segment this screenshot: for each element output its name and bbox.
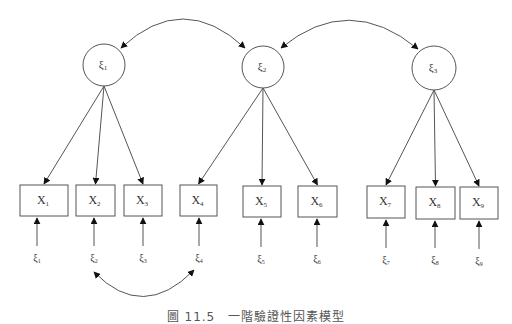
- loading-arrow-F1-X1: [44, 86, 104, 184]
- error-label: ξ1: [33, 252, 40, 264]
- loading-arrow-F2-X6: [263, 88, 318, 185]
- indicator-box-X4: X4: [180, 185, 217, 216]
- latent-factor-F1: ξ1: [83, 44, 125, 86]
- error-covariance-arc-e2-e4: [94, 270, 194, 297]
- error-term-7: ξ7: [382, 220, 389, 266]
- error-term-4: ξ4: [195, 218, 202, 264]
- latent-factors: ξ1ξ2ξ3: [83, 44, 456, 90]
- error-label: ξ9: [475, 255, 482, 267]
- error-term-5: ξ5: [257, 219, 264, 265]
- factor-covariance-arcs: [121, 19, 418, 49]
- loading-arrow-F2-X4: [199, 88, 264, 184]
- indicator-box-X6: X6: [298, 186, 337, 217]
- error-term-8: ξ8: [431, 221, 438, 266]
- error-label: ξ7: [382, 254, 389, 266]
- indicator-box-X3: X3: [124, 185, 162, 216]
- loading-arrow-F3-X9: [434, 90, 479, 186]
- loading-arrow-F1-X2: [96, 86, 105, 184]
- indicator-box-X1: X1: [20, 185, 68, 216]
- indicator-box-X8: X8: [416, 187, 455, 219]
- indicator-box-X5: X5: [243, 186, 281, 217]
- error-label: ξ6: [313, 253, 320, 265]
- error-label: ξ4: [195, 252, 202, 264]
- error-terms: ξ1ξ2ξ3ξ4ξ5ξ6ξ7ξ8ξ9: [33, 218, 482, 267]
- error-term-6: ξ6: [313, 219, 320, 265]
- error-term-3: ξ3: [139, 218, 146, 264]
- error-covariance-arcs: [94, 270, 194, 297]
- error-label: ξ5: [257, 253, 264, 265]
- error-label: ξ8: [431, 254, 438, 266]
- error-label: ξ3: [139, 252, 146, 264]
- latent-factor-F2: ξ2: [242, 46, 284, 88]
- figure-caption: 圖 11.5 一階驗證性因素模型: [0, 307, 512, 321]
- error-term-2: ξ2: [90, 218, 97, 264]
- latent-factor-F3: ξ3: [412, 46, 456, 90]
- error-term-9: ξ9: [475, 221, 482, 267]
- covariance-arc-F1-F2: [121, 19, 245, 48]
- error-term-1: ξ1: [33, 218, 40, 264]
- loading-arrow-F1-X3: [104, 86, 143, 184]
- covariance-arc-F2-F3: [281, 20, 418, 49]
- observed-indicators: X1X2X3X4X5X6X7X8X9: [20, 185, 498, 219]
- loading-arrow-F3-X7: [386, 90, 434, 185]
- loading-arrow-F2-X5: [262, 88, 263, 185]
- indicator-box-X9: X9: [460, 187, 498, 219]
- error-label: ξ2: [90, 252, 97, 264]
- loading-arrow-F3-X8: [434, 90, 436, 186]
- indicator-box-X2: X2: [76, 185, 115, 216]
- factor-loading-arrows: [44, 86, 479, 186]
- indicator-box-X7: X7: [367, 186, 405, 218]
